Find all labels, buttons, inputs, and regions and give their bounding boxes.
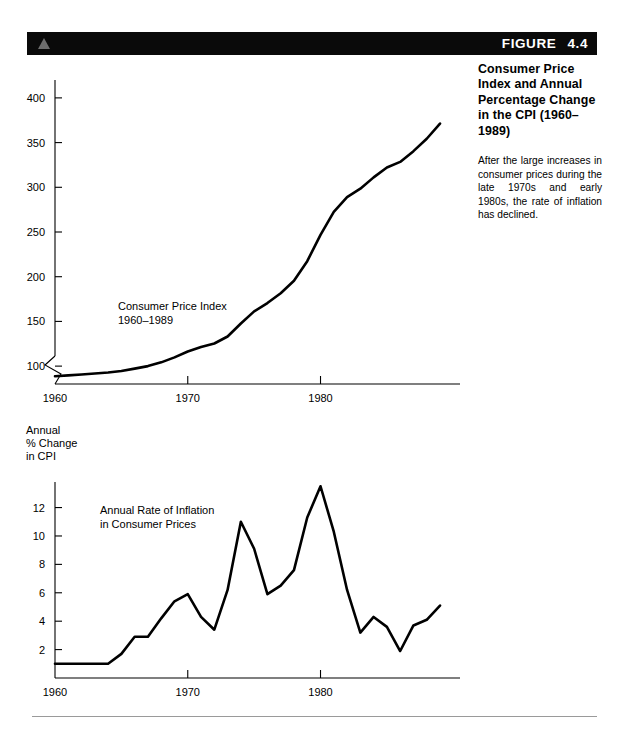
upper-ytick-label: 100: [27, 360, 45, 372]
lower-ylabel-line1: Annual: [26, 424, 60, 436]
figure-tag: FIGURE 4.4: [502, 32, 588, 55]
lower-ytick-label: 2: [39, 644, 45, 656]
upper-xtick-label: 1960: [43, 392, 67, 404]
lower-y-axis: 24681012: [33, 482, 62, 678]
lower-x-axis: 196019701980: [43, 670, 460, 698]
chart-cpi-annual-change: Annual % Change in CPI 24681012 19601970…: [0, 420, 470, 710]
upper-ytick-label: 250: [27, 226, 45, 238]
upper-ytick-label: 350: [27, 137, 45, 149]
lower-ytick-label: 12: [33, 502, 45, 514]
figure-label: FIGURE: [502, 36, 557, 51]
upper-ytick-label: 400: [27, 92, 45, 104]
upper-xtick-label: 1980: [308, 392, 332, 404]
upper-ytick-label: 200: [27, 271, 45, 283]
lower-ytick-label: 6: [39, 587, 45, 599]
lower-ylabel-line2: % Change: [26, 437, 77, 449]
caption-title: Consumer Price Index and Annual Percenta…: [478, 62, 602, 139]
upper-xtick-label: 1970: [176, 392, 200, 404]
caption-column: Consumer Price Index and Annual Percenta…: [478, 62, 602, 222]
lower-ytick-label: 8: [39, 558, 45, 570]
cpi-level-line: [55, 124, 440, 377]
caption-body: After the large increases in consumer pr…: [478, 154, 602, 222]
lower-xtick-label: 1970: [176, 686, 200, 698]
upper-x-axis: 196019701980: [43, 376, 460, 404]
lower-ytick-label: 4: [39, 615, 45, 627]
figure-header-band: FIGURE 4.4: [27, 32, 597, 55]
lower-ylabel-line3: in CPI: [26, 450, 56, 462]
lower-axis-title: Annual % Change in CPI: [26, 424, 77, 462]
upper-ytick-label: 150: [27, 315, 45, 327]
footer-rule: [32, 716, 597, 717]
inflation-series-label-line2: in Consumer Prices: [100, 518, 196, 530]
upper-ytick-label: 300: [27, 181, 45, 193]
inflation-series-label-line1: Annual Rate of Inflation: [100, 504, 214, 516]
chart-cpi-level: 100150200250300350400 196019701980 Consu…: [0, 62, 470, 412]
cpi-level-series-label-line2: 1960–1989: [118, 314, 173, 326]
upper-y-axis: 100150200250300350400: [27, 80, 62, 384]
cpi-level-series-label-line1: Consumer Price Index: [118, 300, 227, 312]
lower-xtick-label: 1960: [43, 686, 67, 698]
figure-number: 4.4: [567, 36, 588, 51]
lower-ytick-label: 10: [33, 530, 45, 542]
triangle-up-icon: [38, 38, 50, 49]
lower-xtick-label: 1980: [308, 686, 332, 698]
